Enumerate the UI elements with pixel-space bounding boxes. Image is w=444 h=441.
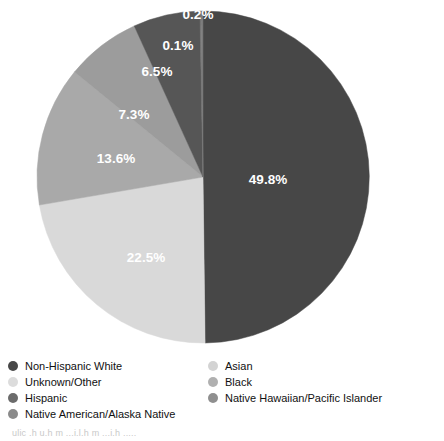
legend-item-label: Black: [225, 376, 252, 388]
pie-slice-value-label: 49.8%: [249, 172, 287, 187]
chart-legend: Non-Hispanic WhiteUnknown/OtherHispanicN…: [0, 358, 444, 424]
caption-strip: ulic .h u.h m ...i.l.h m ...i.h .....: [0, 428, 444, 441]
legend-item[interactable]: Native Hawaiian/Pacific Islander: [208, 390, 444, 405]
caption-text: ulic .h u.h m ...i.l.h m ...i.h .....: [0, 428, 444, 439]
legend-item-label: Non-Hispanic White: [25, 360, 122, 372]
legend-column-left: Non-Hispanic WhiteUnknown/OtherHispanicN…: [8, 358, 213, 422]
pie-slice-value-label: 6.5%: [142, 64, 173, 79]
legend-item-label: Native American/Alaska Native: [25, 408, 175, 420]
legend-item[interactable]: Asian: [208, 358, 444, 373]
legend-swatch-icon: [8, 409, 18, 419]
pie-chart-plot-area: 49.8%22.5%13.6%7.3%6.5%0.1%0.2%: [0, 0, 444, 356]
pie-slice-value-label: 0.1%: [163, 38, 194, 53]
legend-swatch-icon: [8, 393, 18, 403]
pie-slice[interactable]: [39, 177, 205, 343]
legend-item-label: Unknown/Other: [25, 376, 101, 388]
pie-slice-value-label: 0.2%: [183, 7, 214, 22]
legend-swatch-icon: [8, 361, 18, 371]
legend-item[interactable]: Unknown/Other: [8, 374, 213, 389]
pie-chart-figure: 49.8%22.5%13.6%7.3%6.5%0.1%0.2% Non-Hisp…: [0, 0, 444, 441]
pie-slice-value-label: 13.6%: [97, 151, 135, 166]
pie-slice-group: [37, 11, 369, 343]
legend-item[interactable]: Native American/Alaska Native: [8, 406, 213, 421]
legend-swatch-icon: [8, 377, 18, 387]
pie-chart-svg: 49.8%22.5%13.6%7.3%6.5%0.1%0.2%: [0, 0, 444, 356]
legend-item[interactable]: Hispanic: [8, 390, 213, 405]
pie-slice-value-label: 7.3%: [119, 107, 150, 122]
legend-item-label: Hispanic: [25, 392, 67, 404]
pie-slice-value-label: 22.5%: [127, 250, 165, 265]
legend-swatch-icon: [208, 377, 218, 387]
legend-swatch-icon: [208, 393, 218, 403]
legend-item-label: Native Hawaiian/Pacific Islander: [225, 392, 382, 404]
legend-item-label: Asian: [225, 360, 253, 372]
legend-column-right: AsianBlackNative Hawaiian/Pacific Island…: [208, 358, 444, 406]
legend-item[interactable]: Non-Hispanic White: [8, 358, 213, 373]
legend-item[interactable]: Black: [208, 374, 444, 389]
legend-swatch-icon: [208, 361, 218, 371]
